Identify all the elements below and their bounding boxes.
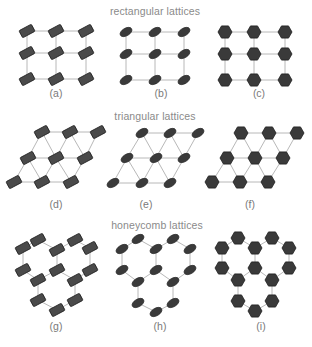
rect-site: [6, 175, 22, 189]
rect-site: [49, 303, 65, 317]
ellipse-site: [134, 176, 149, 189]
ellipse-site: [134, 126, 149, 139]
panel-label-b: (b): [155, 87, 168, 99]
hexagon-site: [218, 74, 232, 86]
hexagon-site: [215, 242, 229, 254]
hexagon-site: [265, 295, 279, 307]
lattice-panel-g: [15, 233, 98, 317]
hexagon-site: [231, 232, 245, 244]
rect-site: [19, 72, 35, 86]
section-title-rectangular: rectangular lattices: [110, 5, 200, 17]
hexagon-site: [205, 176, 219, 188]
hexagon-site: [231, 295, 245, 307]
rect-site: [67, 233, 83, 247]
rect-site: [78, 46, 94, 60]
hexagon-site: [278, 74, 292, 86]
lattice-panel-d: [6, 125, 106, 189]
hexagon-site: [234, 127, 248, 139]
rect-site: [77, 151, 93, 165]
rect-site: [63, 175, 79, 189]
lattice-panel-a: [19, 24, 94, 86]
rect-site: [34, 175, 50, 189]
section-title-honeycomb: honeycomb lattices: [111, 219, 203, 231]
ellipse-site: [119, 151, 134, 164]
rect-site: [90, 125, 106, 139]
hexagon-site: [218, 48, 232, 60]
ellipse-site: [190, 126, 205, 139]
lattice-diagram: [0, 0, 312, 347]
rect-site: [49, 263, 65, 277]
ellipse-site: [105, 176, 120, 189]
rect-site: [49, 243, 65, 257]
ellipse-site: [148, 151, 163, 164]
hexagon-site: [278, 48, 292, 60]
rect-site: [15, 263, 31, 277]
rect-site: [78, 72, 94, 86]
lattice-bond: [170, 133, 184, 158]
rect-site: [19, 46, 35, 60]
lattice-bond: [127, 158, 142, 183]
hexagon-site: [247, 26, 261, 38]
hexagon-site: [248, 262, 262, 274]
hexagon-site: [261, 176, 275, 188]
panel-label-e: (e): [140, 198, 153, 210]
lattice-panel-i: [215, 232, 296, 317]
ellipse-site: [165, 232, 180, 245]
rect-site: [62, 125, 78, 139]
lattice-bond: [142, 133, 156, 158]
hexagon-site: [247, 74, 261, 86]
panel-label-h: (h): [154, 320, 167, 332]
hexagon-site: [220, 152, 234, 164]
lattice-panel-b: [118, 25, 191, 86]
hexagon-site: [262, 127, 276, 139]
hexagon-site: [233, 176, 247, 188]
rect-site: [15, 241, 31, 255]
rect-site: [48, 151, 64, 165]
rect-site: [30, 273, 46, 287]
hexagon-site: [276, 152, 290, 164]
rect-site: [82, 241, 98, 255]
lattice-panel-h: [114, 232, 197, 318]
hexagon-site: [265, 232, 279, 244]
hexagon-site: [248, 242, 262, 254]
panel-label-d: (d): [50, 198, 63, 210]
section-title-triangular: triangular lattices: [114, 110, 195, 122]
ellipse-site: [162, 126, 177, 139]
rect-site: [67, 273, 83, 287]
lattice-panel-e: [105, 126, 205, 189]
hexagon-site: [265, 274, 279, 286]
hexagon-site: [290, 127, 304, 139]
hexagon-site: [247, 48, 261, 60]
rect-site: [48, 46, 64, 60]
ellipse-site: [162, 176, 177, 189]
panel-label-g: (g): [50, 320, 63, 332]
ellipse-site: [130, 232, 145, 245]
hexagon-site: [248, 305, 262, 317]
lattice-bond: [42, 132, 56, 158]
hexagon-site: [282, 242, 296, 254]
rect-site: [34, 125, 50, 139]
lattice-panel-c: [218, 26, 292, 86]
hexagon-site: [278, 26, 292, 38]
hexagon-site: [218, 26, 232, 38]
hexagon-site: [231, 274, 245, 286]
rect-site: [67, 293, 83, 307]
lattice-bond: [156, 158, 170, 183]
panel-label-c: (c): [253, 87, 265, 99]
rect-site: [82, 263, 98, 277]
rect-site: [19, 24, 35, 38]
rect-site: [48, 24, 64, 38]
ellipse-site: [148, 305, 163, 318]
rect-site: [20, 151, 36, 165]
hexagon-site: [215, 262, 229, 274]
lattice-panel-f: [205, 127, 304, 188]
rect-site: [48, 72, 64, 86]
panel-label-f: (f): [245, 198, 255, 210]
hexagon-site: [282, 262, 296, 274]
panel-label-i: (i): [256, 320, 265, 332]
hexagon-site: [248, 152, 262, 164]
rect-site: [78, 24, 94, 38]
rect-site: [30, 293, 46, 307]
panel-label-a: (a): [50, 87, 63, 99]
rect-site: [30, 233, 46, 247]
